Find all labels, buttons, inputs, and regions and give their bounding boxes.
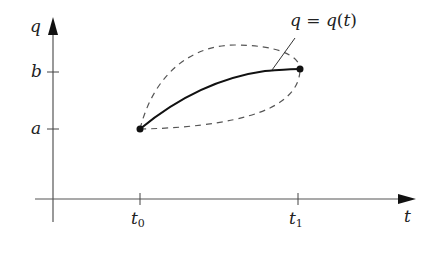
q-axis-label: q <box>30 18 41 35</box>
actual-path <box>140 69 300 129</box>
t0-sub: 0 <box>138 217 145 230</box>
diagram-canvas: q t b a t0 t1 q = q(t) <box>0 0 432 255</box>
annotation-lhs: q <box>290 10 301 30</box>
annotation-paren-close: ) <box>350 10 357 30</box>
varied-path-lower <box>140 69 300 129</box>
t-axis-label: t <box>404 208 411 225</box>
annotation-leader-line <box>272 38 295 70</box>
annotation-rhs-fn: q <box>326 10 337 30</box>
end-point <box>297 66 304 73</box>
tick-label-b: b <box>31 63 42 80</box>
tick-label-a: a <box>31 120 41 137</box>
varied-path-upper <box>140 45 300 129</box>
q-axis-arrow-icon <box>48 17 58 35</box>
diagram-svg <box>0 0 432 255</box>
curve-annotation: q = q(t) <box>290 12 357 29</box>
annotation-equals: = <box>301 10 326 30</box>
tick-label-t1: t1 <box>289 210 303 229</box>
t-axis-arrow-icon <box>398 194 416 204</box>
tick-label-t0: t0 <box>131 210 145 229</box>
t1-sub: 1 <box>296 217 303 230</box>
start-point <box>137 126 144 133</box>
t0-base: t <box>131 208 138 228</box>
t1-base: t <box>289 208 296 228</box>
